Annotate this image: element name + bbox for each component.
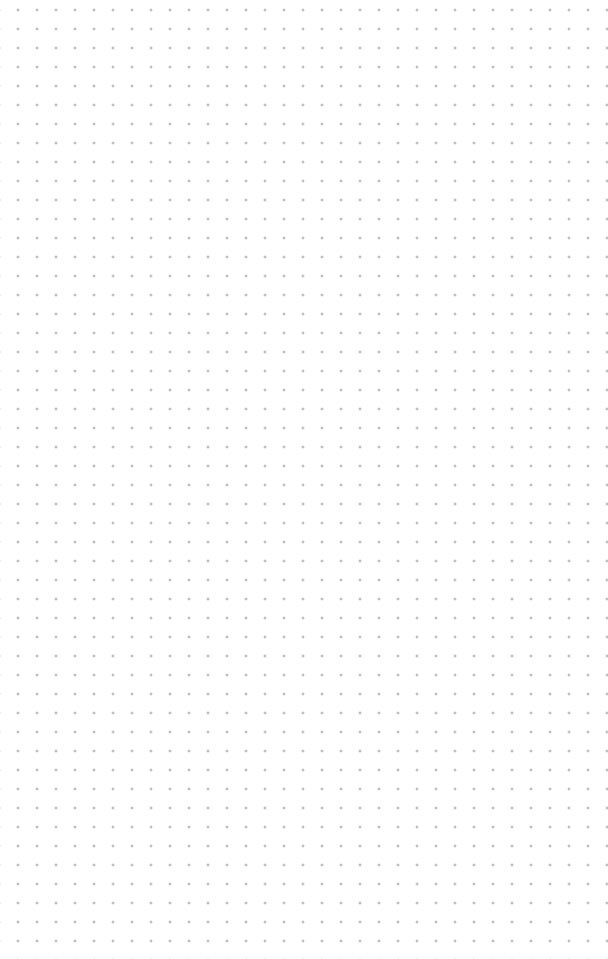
dot-grid-canvas[interactable] xyxy=(0,0,608,959)
